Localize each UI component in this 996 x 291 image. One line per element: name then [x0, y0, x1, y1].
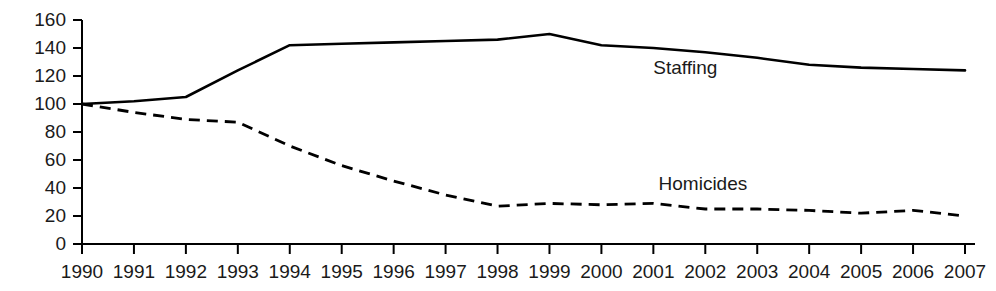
series-annotations: StaffingHomicides: [653, 57, 747, 194]
x-tick-label: 2000: [580, 261, 622, 282]
line-chart-figure: 020406080100120140160 199019911992199319…: [0, 0, 996, 291]
x-tick-label: 2006: [892, 261, 934, 282]
x-tick-label: 2003: [736, 261, 778, 282]
x-tick-label: 1996: [373, 261, 415, 282]
x-tick-label: 2001: [632, 261, 674, 282]
series-label-staffing: Staffing: [653, 57, 717, 78]
chart-canvas: 020406080100120140160 199019911992199319…: [0, 0, 996, 291]
y-tick-label: 0: [55, 233, 66, 254]
x-tick-label: 1994: [269, 261, 312, 282]
x-tick-label: 1999: [528, 261, 570, 282]
x-tick-label: 2004: [788, 261, 831, 282]
y-tick-label: 140: [34, 37, 66, 58]
series-label-homicides: Homicides: [659, 173, 748, 194]
x-tick-label: 1995: [321, 261, 363, 282]
y-axis: 020406080100120140160: [34, 9, 82, 254]
y-tick-label: 20: [45, 205, 66, 226]
x-tick-label: 1997: [424, 261, 466, 282]
y-tick-label: 100: [34, 93, 66, 114]
y-tick-label: 40: [45, 177, 66, 198]
y-tick-label: 120: [34, 65, 66, 86]
series-line-staffing: [82, 34, 965, 104]
y-tick-label: 80: [45, 121, 66, 142]
series-line-homicides: [82, 104, 965, 216]
x-tick-label: 2007: [944, 261, 986, 282]
x-tick-label: 2005: [840, 261, 882, 282]
x-axis: 1990199119921993199419951996199719981999…: [61, 244, 986, 282]
y-tick-label: 60: [45, 149, 66, 170]
x-tick-label: 1998: [476, 261, 518, 282]
data-series-group: [82, 34, 965, 216]
x-tick-label: 1991: [113, 261, 155, 282]
x-tick-label: 1992: [165, 261, 207, 282]
y-tick-label: 160: [34, 9, 66, 30]
x-tick-label: 2002: [684, 261, 726, 282]
x-tick-label: 1993: [217, 261, 259, 282]
x-tick-label: 1990: [61, 261, 103, 282]
